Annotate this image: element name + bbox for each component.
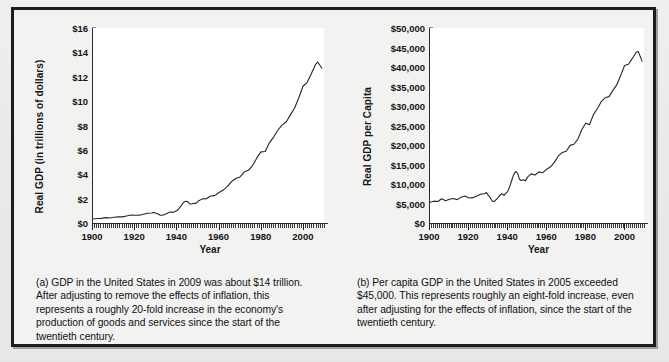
x-tick-minor bbox=[229, 224, 230, 228]
x-axis-b bbox=[429, 223, 648, 231]
x-tick-minor bbox=[248, 224, 249, 228]
y-tick-label: $16 bbox=[72, 23, 88, 34]
x-tick-minor bbox=[460, 224, 461, 228]
x-tick-minor bbox=[132, 224, 133, 228]
x-tick-minor bbox=[538, 224, 539, 228]
x-tick-minor bbox=[603, 224, 604, 228]
x-axis-label-b: Year bbox=[429, 244, 648, 255]
x-tick-minor bbox=[626, 224, 627, 228]
y-tick-label: $8 bbox=[77, 120, 88, 131]
x-tick-minor bbox=[214, 224, 215, 228]
x-tick-minor bbox=[292, 224, 293, 228]
x-tick-minor bbox=[100, 224, 101, 228]
x-tick-minor bbox=[168, 224, 169, 228]
y-tick-label: $14 bbox=[72, 47, 88, 58]
x-tick-minor bbox=[644, 224, 645, 228]
x-tick-minor bbox=[513, 224, 514, 228]
x-tick-minor bbox=[273, 224, 274, 228]
x-tick-minor bbox=[581, 224, 582, 228]
x-tick-minor bbox=[117, 224, 118, 228]
x-axis-a bbox=[92, 223, 328, 231]
x-tick-minor bbox=[153, 224, 154, 228]
x-tick-minor bbox=[470, 224, 471, 228]
x-tick-minor bbox=[595, 224, 596, 228]
x-tick-minor bbox=[488, 224, 489, 228]
x-tick-minor bbox=[320, 224, 321, 228]
x-tick-minor bbox=[164, 224, 165, 228]
x-tick-minor bbox=[187, 224, 188, 228]
x-tick-minor bbox=[623, 224, 624, 228]
x-tick-minor bbox=[540, 224, 541, 228]
x-tick-minor bbox=[136, 224, 137, 228]
x-tick-minor bbox=[147, 224, 148, 228]
x-tick-minor bbox=[267, 224, 268, 228]
x-tick-minor bbox=[128, 224, 129, 228]
y-tick-label: $30,000 bbox=[391, 101, 425, 112]
x-tick-minor bbox=[619, 224, 620, 228]
x-tick-major bbox=[585, 224, 586, 230]
x-tick-major bbox=[624, 224, 625, 230]
x-tick-label: 1920 bbox=[458, 231, 479, 242]
x-tick-minor bbox=[605, 224, 606, 228]
panel-b: Real GDP per Capita $0$5,000$10,000$15,0… bbox=[339, 10, 656, 344]
x-tick-minor bbox=[307, 224, 308, 228]
x-tick-major bbox=[261, 224, 262, 230]
x-tick-minor bbox=[548, 224, 549, 228]
x-tick-minor bbox=[578, 224, 579, 228]
caption-a: (a) GDP in the United States in 2009 was… bbox=[36, 276, 314, 343]
x-tick-minor bbox=[476, 224, 477, 228]
x-tick-minor bbox=[103, 224, 104, 228]
x-tick-minor bbox=[141, 224, 142, 228]
x-tick-minor bbox=[178, 224, 179, 228]
x-tick-minor bbox=[556, 224, 557, 228]
x-tick-minor bbox=[157, 224, 158, 228]
x-tick-minor bbox=[527, 224, 528, 228]
x-tick-minor bbox=[113, 224, 114, 228]
x-tick-minor bbox=[443, 224, 444, 228]
x-tick-label: 1900 bbox=[81, 231, 102, 242]
x-tick-minor bbox=[560, 224, 561, 228]
x-tick-minor bbox=[617, 224, 618, 228]
y-tick-label: $35,000 bbox=[391, 81, 425, 92]
x-tick-minor bbox=[535, 224, 536, 228]
x-tick-minor bbox=[162, 224, 163, 228]
y-tick-label: $25,000 bbox=[391, 120, 425, 131]
x-axis-ticklabels-a: 190019201940196019802000 bbox=[92, 231, 328, 245]
x-tick-minor bbox=[250, 224, 251, 228]
x-tick-minor bbox=[621, 224, 622, 228]
x-tick-minor bbox=[197, 224, 198, 228]
x-tick-minor bbox=[564, 224, 565, 228]
x-tick-minor bbox=[130, 224, 131, 228]
y-tick-label: $0 bbox=[414, 218, 425, 229]
x-tick-minor bbox=[204, 224, 205, 228]
x-tick-minor bbox=[615, 224, 616, 228]
x-tick-minor bbox=[449, 224, 450, 228]
caption-b: (b) Per capita GDP in the United States … bbox=[357, 276, 639, 330]
x-tick-minor bbox=[225, 224, 226, 228]
x-tick-minor bbox=[275, 224, 276, 228]
x-tick-minor bbox=[529, 224, 530, 228]
x-tick-minor bbox=[611, 224, 612, 228]
x-tick-minor bbox=[235, 224, 236, 228]
x-tick-minor bbox=[221, 224, 222, 228]
y-axis-ticks-a: $0$2$4$6$8$10$12$14$16 bbox=[46, 20, 92, 252]
x-tick-minor bbox=[472, 224, 473, 228]
y-tick-label: $50,000 bbox=[391, 23, 425, 34]
figure-frame: Real GDP (in trillions of dollars) $0$2$… bbox=[11, 7, 656, 347]
x-tick-minor bbox=[552, 224, 553, 228]
x-tick-label: 1980 bbox=[250, 231, 271, 242]
y-tick-label: $4 bbox=[77, 169, 88, 180]
x-tick-major bbox=[468, 224, 469, 230]
x-tick-minor bbox=[208, 224, 209, 228]
x-tick-minor bbox=[583, 224, 584, 228]
x-tick-minor bbox=[269, 224, 270, 228]
x-tick-major bbox=[92, 224, 93, 230]
x-tick-minor bbox=[191, 224, 192, 228]
x-tick-minor bbox=[181, 224, 182, 228]
x-tick-minor bbox=[96, 224, 97, 228]
x-tick-minor bbox=[509, 224, 510, 228]
x-tick-minor bbox=[210, 224, 211, 228]
x-tick-minor bbox=[591, 224, 592, 228]
x-tick-minor bbox=[454, 224, 455, 228]
data-line bbox=[430, 51, 642, 202]
